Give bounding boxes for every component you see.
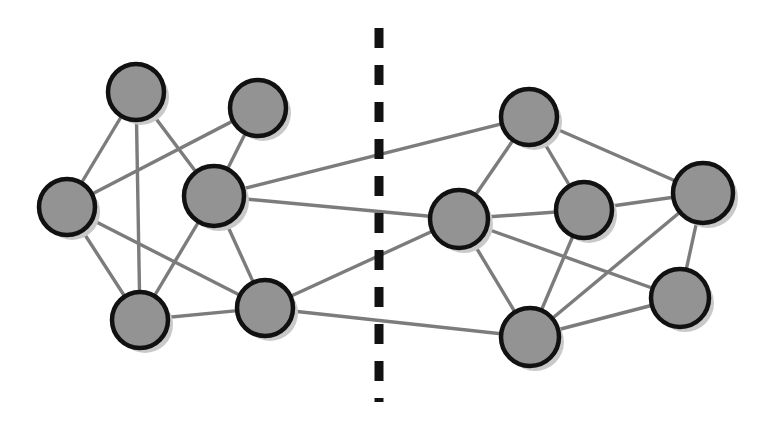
graph-edge-cut bbox=[214, 196, 459, 219]
graph-node[interactable] bbox=[501, 89, 557, 145]
node-circle[interactable] bbox=[501, 89, 557, 145]
graph-edge-cut bbox=[265, 219, 459, 308]
graph-node[interactable] bbox=[112, 292, 168, 348]
node-circle[interactable] bbox=[501, 308, 559, 366]
graph-node[interactable] bbox=[237, 280, 293, 336]
graph-node[interactable] bbox=[673, 163, 733, 223]
graph-canvas bbox=[0, 0, 769, 425]
graph-node[interactable] bbox=[108, 64, 164, 120]
graph-node[interactable] bbox=[501, 308, 559, 366]
graph-node[interactable] bbox=[39, 179, 95, 235]
node-circle[interactable] bbox=[651, 269, 709, 327]
graph-edge bbox=[136, 92, 140, 320]
node-circle[interactable] bbox=[556, 182, 612, 238]
node-circle[interactable] bbox=[237, 280, 293, 336]
node-circle[interactable] bbox=[230, 80, 286, 136]
graph-node[interactable] bbox=[230, 80, 286, 136]
node-circle[interactable] bbox=[673, 163, 733, 223]
graph-edge-cut bbox=[265, 308, 530, 337]
graph-node[interactable] bbox=[430, 190, 488, 248]
node-circle[interactable] bbox=[108, 64, 164, 120]
graph-figure bbox=[0, 0, 769, 425]
node-circle[interactable] bbox=[112, 292, 168, 348]
graph-node[interactable] bbox=[651, 269, 709, 327]
graph-node[interactable] bbox=[184, 166, 244, 226]
node-circle[interactable] bbox=[39, 179, 95, 235]
graph-node[interactable] bbox=[556, 182, 612, 238]
node-circle[interactable] bbox=[430, 190, 488, 248]
node-circle[interactable] bbox=[184, 166, 244, 226]
